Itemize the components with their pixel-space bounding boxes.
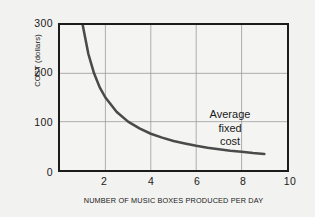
annotation-line-1: Average — [193, 108, 267, 122]
x-tick-label-2: 2 — [92, 176, 116, 187]
chart-figure: COST (dollars) 300 200 100 0 2 4 6 8 10 … — [0, 0, 315, 217]
plot-area — [58, 23, 289, 172]
y-tick-label-0: 0 — [13, 167, 53, 178]
y-tick-label-100: 100 — [13, 117, 53, 128]
x-tick-label-4: 4 — [139, 176, 163, 187]
y-tick-label-200: 200 — [13, 67, 53, 78]
annotation-line-2: fixed — [193, 122, 267, 136]
x-tick-label-10: 10 — [278, 176, 302, 187]
average-fixed-cost-label: Average fixed cost — [193, 108, 267, 149]
y-tick-label-300: 300 — [13, 18, 53, 29]
x-tick-label-6: 6 — [185, 176, 209, 187]
x-axis-title: NUMBER OF MUSIC BOXES PRODUCED PER DAY — [58, 196, 289, 205]
x-tick-label-8: 8 — [231, 176, 255, 187]
annotation-line-3: cost — [193, 135, 267, 149]
